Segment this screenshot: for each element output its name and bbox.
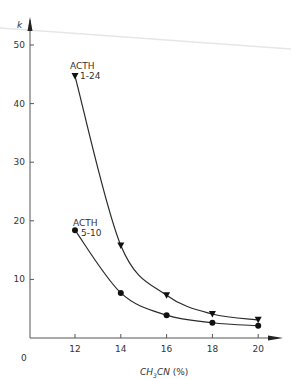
x-axis-unit: (%) <box>173 367 189 377</box>
series-label-acth-5-10: ACTH 5-10 <box>73 219 101 238</box>
series-label-line1: ACTH <box>73 219 101 228</box>
y-tick-label: 20 <box>14 216 25 225</box>
x-tick-label: 20 <box>252 345 263 354</box>
x-tick-label: 14 <box>115 345 126 354</box>
y-tick-label: 50 <box>14 41 25 50</box>
circle-marker-icon <box>118 290 124 296</box>
y-tick-label: 40 <box>14 99 25 108</box>
circle-marker-icon <box>209 320 215 326</box>
triangle-marker-icon <box>163 292 170 299</box>
y-axis-arrow-icon <box>28 17 33 31</box>
x-axis-label: CH3CN (%) <box>140 368 188 379</box>
axes <box>28 17 284 341</box>
series-label-line2: 1-24 <box>80 72 100 81</box>
series-label-acth-1-24: ACTH 1-24 <box>70 62 100 81</box>
x-tick-label: 12 <box>69 345 80 354</box>
series-label-line1: ACTH <box>70 62 100 71</box>
x-axis-arrow-icon <box>268 336 283 341</box>
y-tick-label: 30 <box>14 158 25 167</box>
circle-marker-icon <box>164 312 170 318</box>
y-tick-label: 10 <box>14 275 25 284</box>
x-axis-label-pre: CH <box>140 367 153 377</box>
series-line <box>75 76 258 320</box>
circle-marker-icon <box>255 323 261 329</box>
series-line <box>75 230 258 326</box>
y-axis-label: k <box>17 21 22 30</box>
scan-artifact-line <box>0 28 291 49</box>
x-tick-label: 18 <box>207 345 218 354</box>
x-axis-label-post: CN <box>157 367 170 377</box>
series-label-line2: 5-10 <box>81 229 101 238</box>
triangle-marker-icon <box>117 242 124 249</box>
series-group <box>72 73 262 329</box>
x-tick-label: 16 <box>161 345 172 354</box>
origin-label: 0 <box>21 354 27 363</box>
